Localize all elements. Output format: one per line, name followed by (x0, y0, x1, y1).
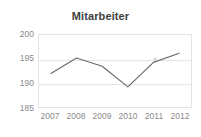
chart-title: Mitarbeiter (0, 10, 201, 22)
x-axis: 200720082009201020112012 (38, 112, 192, 126)
y-tick-label-200: 200 (6, 30, 34, 39)
y-tick-label-195: 195 (6, 54, 34, 63)
y-tick-label-185: 185 (6, 104, 34, 113)
plot-area (38, 34, 192, 108)
series-line-chart (39, 35, 191, 107)
chart-card: Mitarbeiter 200195190185 200720082009201… (0, 0, 201, 137)
y-tick-label-190: 190 (6, 79, 34, 88)
x-tick-label-2012: 2012 (165, 112, 195, 121)
series-polyline-mitarbeiter (51, 53, 179, 87)
y-axis: 200195190185 (4, 34, 34, 108)
